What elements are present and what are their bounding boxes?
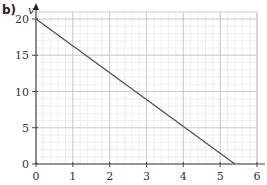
y-tick-label: 20 <box>15 13 29 26</box>
y-tick-label: 10 <box>15 86 29 99</box>
y-tick-label: 15 <box>15 49 29 62</box>
x-tick-label: 3 <box>143 170 150 183</box>
y-tick-label: 5 <box>22 122 29 135</box>
tick-labels: 012345605101520 <box>15 13 261 183</box>
x-tick-label: 6 <box>254 170 261 183</box>
x-tick-label: 1 <box>69 170 76 183</box>
x-tick-label: 0 <box>33 170 40 183</box>
chart: b) 012345605101520 v <box>0 0 267 185</box>
part-label: b) <box>2 3 16 17</box>
major-grid <box>36 12 257 164</box>
x-tick-label: 4 <box>180 170 187 183</box>
y-tick-label: 0 <box>22 158 29 171</box>
y-axis-label: v <box>28 4 35 17</box>
x-tick-label: 2 <box>106 170 113 183</box>
x-tick-label: 5 <box>217 170 224 183</box>
